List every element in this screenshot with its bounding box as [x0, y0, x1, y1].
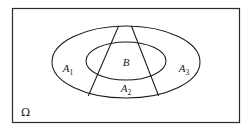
- region-label-a2-subscript: 2: [127, 88, 131, 97]
- region-label-b: B: [123, 56, 130, 68]
- omega-universe-label: Ω: [21, 106, 30, 119]
- region-label-a1-subscript: 1: [69, 68, 73, 77]
- region-label-a3-subscript: 3: [185, 68, 189, 77]
- venn-diagram-figure: A1 B A3 A2 Ω: [0, 0, 246, 132]
- region-label-b-letter: B: [123, 56, 130, 68]
